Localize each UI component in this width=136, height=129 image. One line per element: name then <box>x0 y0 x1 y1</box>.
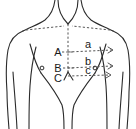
arrowheads-group <box>106 47 113 78</box>
label-measure-c: c <box>85 64 91 76</box>
right-outer-arm <box>113 31 130 129</box>
anatomy-svg: A B C a b c <box>0 0 136 129</box>
right-rib-margin <box>72 73 95 129</box>
left-nipple-marker <box>40 66 44 70</box>
label-measure-a: a <box>85 38 92 50</box>
level-line-a <box>68 50 112 52</box>
right-neck-contour <box>81 0 113 31</box>
left-outer-arm <box>6 31 23 129</box>
left-neck-contour <box>23 0 55 31</box>
right-arm-crease <box>119 72 123 129</box>
left-sternocleidomastoid <box>58 0 68 24</box>
chest-diagram: A B C a b c <box>0 0 136 129</box>
label-level-c: C <box>54 72 62 84</box>
label-level-a: A <box>54 46 62 58</box>
left-costal-arch <box>64 72 68 80</box>
left-arm-crease <box>13 72 17 129</box>
right-sternocleidomastoid <box>68 0 78 24</box>
